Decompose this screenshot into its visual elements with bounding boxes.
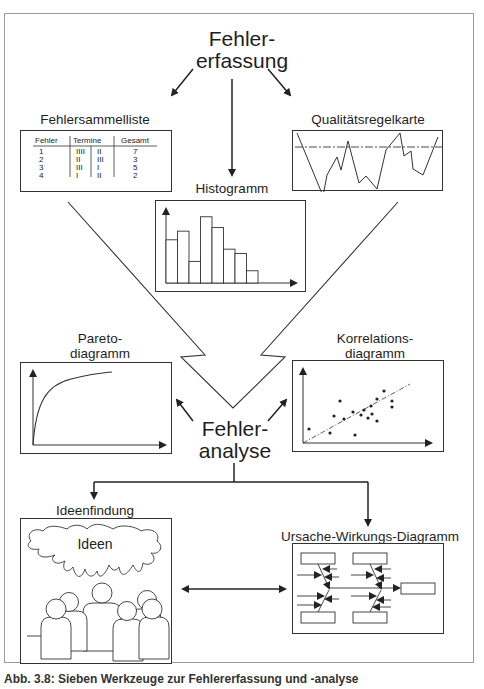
arrow-to-fehlersammelliste (172, 69, 193, 95)
box-ursache-wirkung (292, 543, 444, 634)
center-line-2: analyse (180, 440, 290, 462)
label-korrelationsdiagramm: Korrelations- diagramm (315, 331, 435, 361)
label-paretodiagramm: Pareto- diagramm (50, 331, 150, 361)
scatter-point (351, 410, 354, 413)
scatter-point (382, 389, 385, 392)
cause-box-bottom-right (353, 612, 387, 623)
scatter-point (338, 399, 341, 402)
label-fehlersammelliste: Fehlersammelliste (20, 112, 170, 127)
brainstorm-illustration: Ideen (21, 519, 173, 665)
scatter-point (353, 433, 356, 436)
cause-box-top-left (301, 553, 335, 564)
regression-line (303, 384, 410, 443)
scatter-point (342, 417, 345, 420)
korrelation-line-1: Korrelations- (315, 331, 435, 346)
cloud-text: Ideen (77, 536, 112, 552)
effect-box (401, 583, 435, 594)
control-chart-series (297, 133, 438, 192)
histogram-bar (212, 228, 224, 283)
cause-box-top-right (353, 553, 387, 564)
label-histogramm: Histogramm (180, 181, 284, 196)
figure-caption: Abb. 3.8: Sieben Werkzeuge zur Fehlererf… (4, 672, 359, 686)
bone-br (370, 590, 381, 612)
histogram-chart (156, 201, 307, 293)
scatter-point (307, 427, 310, 430)
scatter-point (369, 404, 372, 407)
histogram-bar (166, 240, 178, 283)
scatter-point (362, 408, 365, 411)
histogram-bar (201, 217, 213, 283)
scatter-point (366, 416, 369, 419)
scatter-point (332, 414, 335, 417)
pareto-line-1: Pareto- (50, 331, 150, 346)
scatter-point (390, 405, 393, 408)
scatter-chart (293, 361, 445, 453)
label-ideenfindung: Ideenfindung (50, 503, 140, 518)
histogram-bar (178, 231, 190, 283)
bone-tr (370, 564, 381, 588)
label-ursache-wirkung: Ursache-Wirkungs-Diagramm (270, 529, 470, 544)
bone-tl (318, 564, 329, 588)
center-line-1: Fehler- (180, 418, 290, 440)
histogram-bar (235, 253, 247, 283)
pareto-curve (33, 372, 112, 445)
histogram-bar (189, 261, 201, 283)
box-ideenfindung: Ideen (20, 518, 172, 664)
histogram-bar (247, 271, 259, 283)
fishbone-diagram (293, 544, 445, 635)
people-group (41, 583, 169, 661)
box-paretodiagramm (20, 362, 172, 454)
tally-grid (21, 131, 171, 191)
scatter-point (359, 413, 362, 416)
arrow-to-qualitaetsregelkarte (268, 69, 290, 95)
scatter-point (328, 431, 331, 434)
cause-box-bottom-left (301, 612, 335, 623)
control-chart (293, 131, 444, 192)
box-histogramm (155, 200, 306, 292)
bone-bl (318, 590, 329, 612)
scatter-point (390, 399, 393, 402)
korrelation-line-2: diagramm (315, 346, 435, 361)
title-fehleranalyse: Fehler- analyse (180, 418, 290, 462)
scatter-point (370, 412, 373, 415)
label-qualitaetsregelkarte: Qualitätsregelkarte (288, 112, 448, 127)
box-fehlersammelliste: Fehler Termine Gesamt 1IIIIII72IIIII33II… (20, 130, 172, 192)
pareto-chart (21, 363, 173, 455)
box-korrelationsdiagramm (292, 360, 444, 452)
histogram-bar (224, 249, 236, 283)
box-qualitaetsregelkarte (292, 130, 443, 191)
scatter-point (375, 397, 378, 400)
pareto-line-2: diagramm (50, 346, 150, 361)
scatter-point (375, 419, 378, 422)
